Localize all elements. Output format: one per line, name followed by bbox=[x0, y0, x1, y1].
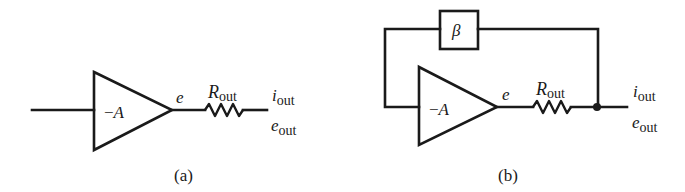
output-voltage-label-a: eout bbox=[271, 116, 297, 138]
caption-b: (b) bbox=[498, 166, 518, 185]
resistor-label-b: Rout bbox=[535, 79, 565, 101]
beta-label-b: β bbox=[451, 21, 461, 40]
node-label-e-a: e bbox=[176, 88, 184, 107]
panel-b: β −A e Rout iout eout (b) bbox=[385, 11, 658, 185]
output-voltage-label-b: eout bbox=[632, 113, 658, 135]
junction-dot-b bbox=[593, 103, 601, 111]
resistor-icon-a bbox=[205, 104, 243, 116]
gain-label-a: −A bbox=[104, 103, 125, 122]
caption-a: (a) bbox=[174, 166, 193, 185]
panel-a: −A e Rout iout eout (a) bbox=[32, 72, 297, 185]
node-label-e-b: e bbox=[502, 85, 510, 104]
resistor-icon-b bbox=[533, 101, 571, 113]
output-current-label-a: iout bbox=[272, 86, 295, 108]
resistor-label-a: Rout bbox=[207, 82, 237, 104]
gain-label-b: −A bbox=[429, 100, 450, 119]
feedback-wire-left-b bbox=[385, 29, 440, 107]
circuit-figure: −A e Rout iout eout (a) β −A e Rout iout… bbox=[0, 0, 685, 192]
output-current-label-b: iout bbox=[633, 82, 656, 104]
